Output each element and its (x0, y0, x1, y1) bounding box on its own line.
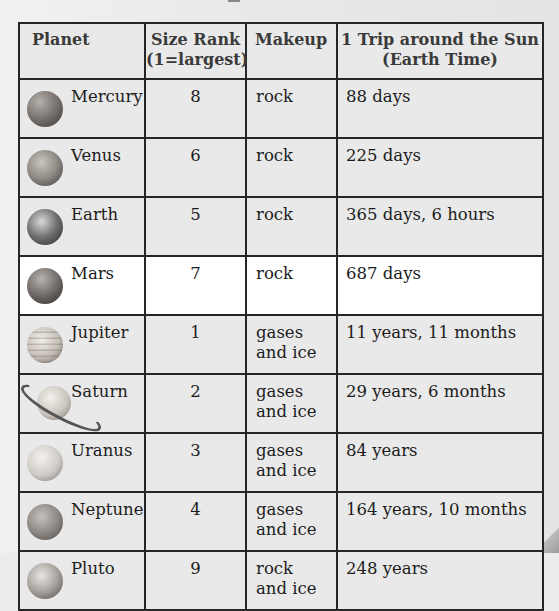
makeup-line1: rock (256, 146, 293, 165)
size-rank-cell: 3 (145, 433, 246, 492)
makeup-line1: gases (256, 382, 303, 401)
header-orbit: 1 Trip around the Sun(Earth Time) (337, 23, 543, 79)
planet-name: Pluto (71, 559, 115, 579)
header-size-rank-line2: (1=largest) (146, 50, 248, 69)
planet-name: Earth (71, 205, 118, 225)
makeup-line1: rock (256, 264, 293, 283)
planet-cell: Pluto (19, 551, 145, 610)
orbit-cell: 29 years, 6 months (337, 374, 543, 433)
planet-name: Venus (71, 146, 121, 166)
makeup-line2: and ice (256, 461, 317, 480)
makeup-cell: rock (246, 256, 337, 315)
makeup-cell: gasesand ice (246, 433, 337, 492)
header-size-rank-line1: Size Rank (151, 30, 240, 49)
makeup-cell: rock (246, 197, 337, 256)
size-rank-cell: 5 (145, 197, 246, 256)
planet-name: Jupiter (71, 323, 128, 343)
header-makeup-label: Makeup (255, 30, 327, 49)
header-row: Planet Size Rank(1=largest) Makeup 1 Tri… (19, 23, 543, 79)
neptune-icon (27, 504, 63, 540)
table-row-jupiter: Jupiter 1 gasesand ice 11 years, 11 mont… (19, 315, 543, 374)
orbit-cell: 11 years, 11 months (337, 315, 543, 374)
planets-table: Planet Size Rank(1=largest) Makeup 1 Tri… (18, 22, 544, 611)
planet-name: Saturn (71, 382, 128, 402)
uranus-icon (27, 445, 63, 481)
makeup-cell: gasesand ice (246, 315, 337, 374)
makeup-cell: gasesand ice (246, 492, 337, 551)
planet-cell: Mars (19, 256, 145, 315)
makeup-cell: rock (246, 138, 337, 197)
table-row-mars: Mars 7 rock 687 days (19, 256, 543, 315)
orbit-cell: 687 days (337, 256, 543, 315)
size-rank-cell: 4 (145, 492, 246, 551)
orbit-cell: 248 years (337, 551, 543, 610)
size-rank-cell: 1 (145, 315, 246, 374)
header-makeup: Makeup (246, 23, 337, 79)
makeup-line1: gases (256, 500, 303, 519)
top-edge-mark (228, 0, 240, 2)
orbit-cell: 164 years, 10 months (337, 492, 543, 551)
size-rank-cell: 2 (145, 374, 246, 433)
pluto-icon (27, 563, 63, 599)
makeup-line1: rock (256, 205, 293, 224)
header-size-rank: Size Rank(1=largest) (145, 23, 246, 79)
table-row-venus: Venus 6 rock 225 days (19, 138, 543, 197)
planet-name: Neptune (71, 500, 143, 520)
mars-icon (27, 268, 63, 304)
makeup-cell: rock (246, 79, 337, 138)
orbit-cell: 365 days, 6 hours (337, 197, 543, 256)
planet-name: Mars (71, 264, 114, 284)
size-rank-cell: 8 (145, 79, 246, 138)
planet-cell: Jupiter (19, 315, 145, 374)
makeup-line2: and ice (256, 579, 317, 598)
makeup-cell: rockand ice (246, 551, 337, 610)
makeup-line2: and ice (256, 343, 317, 362)
header-orbit-line2: (Earth Time) (382, 50, 498, 69)
planet-cell: Neptune (19, 492, 145, 551)
makeup-line2: and ice (256, 402, 317, 421)
size-rank-cell: 9 (145, 551, 246, 610)
size-rank-cell: 7 (145, 256, 246, 315)
makeup-cell: gasesand ice (246, 374, 337, 433)
size-rank-cell: 6 (145, 138, 246, 197)
makeup-line1: rock (256, 87, 293, 106)
venus-icon (27, 150, 63, 186)
makeup-line1: gases (256, 441, 303, 460)
header-orbit-line1: 1 Trip around the Sun (341, 30, 539, 49)
header-planet-label: Planet (32, 30, 90, 49)
jupiter-icon (27, 327, 63, 363)
planet-cell: Venus (19, 138, 145, 197)
table-row-uranus: Uranus 3 gasesand ice 84 years (19, 433, 543, 492)
earth-icon (27, 209, 63, 245)
planet-cell: Uranus (19, 433, 145, 492)
planet-cell: Earth (19, 197, 145, 256)
table-row-earth: Earth 5 rock 365 days, 6 hours (19, 197, 543, 256)
planet-name: Uranus (71, 441, 132, 461)
orbit-cell: 88 days (337, 79, 543, 138)
table-row-saturn: Saturn 2 gasesand ice 29 years, 6 months (19, 374, 543, 433)
table-row-pluto: Pluto 9 rockand ice 248 years (19, 551, 543, 610)
planet-name: Mercury (71, 87, 143, 107)
orbit-cell: 225 days (337, 138, 543, 197)
orbit-cell: 84 years (337, 433, 543, 492)
header-planet: Planet (19, 23, 145, 79)
planet-cell: Saturn (19, 374, 145, 433)
planet-cell: Mercury (19, 79, 145, 138)
makeup-line2: and ice (256, 520, 317, 539)
table-row-neptune: Neptune 4 gasesand ice 164 years, 10 mon… (19, 492, 543, 551)
makeup-line1: gases (256, 323, 303, 342)
table-row-mercury: Mercury 8 rock 88 days (19, 79, 543, 138)
mercury-icon (27, 91, 63, 127)
makeup-line1: rock (256, 559, 293, 578)
